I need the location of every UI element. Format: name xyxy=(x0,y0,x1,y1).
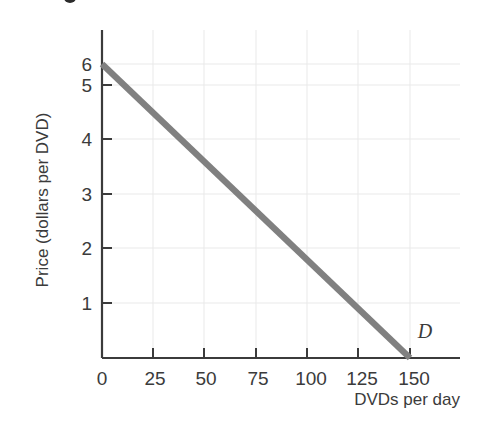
x-tick-label-0: 0 xyxy=(97,368,108,389)
y-tick-label-5: 5 xyxy=(81,75,92,96)
x-tick-label-125: 125 xyxy=(346,368,378,389)
x-axis-title: DVDs per day xyxy=(354,390,460,409)
curve-label-d: D xyxy=(417,320,433,342)
x-tick-label-25: 25 xyxy=(144,368,165,389)
y-tick-label-4: 4 xyxy=(81,129,92,150)
demand-curve-figure: D 6 5 4 3 2 1 0 25 50 75 100 125 150 DVD… xyxy=(0,0,497,428)
demand-curve-chart: D 6 5 4 3 2 1 0 25 50 75 100 125 150 DVD… xyxy=(0,0,497,428)
x-tick-label-50: 50 xyxy=(195,368,216,389)
y-tick-label-3: 3 xyxy=(81,184,92,205)
y-tick-label-6: 6 xyxy=(81,54,92,75)
y-axis-title: Price (dollars per DVD) xyxy=(33,113,52,288)
x-tick-label-100: 100 xyxy=(295,368,327,389)
y-tick-label-1: 1 xyxy=(81,293,92,314)
x-tick-label-150: 150 xyxy=(398,368,430,389)
x-tick-label-75: 75 xyxy=(247,368,268,389)
y-tick-label-2: 2 xyxy=(81,238,92,259)
